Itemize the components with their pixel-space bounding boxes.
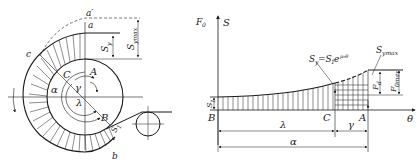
label-c: c — [26, 49, 31, 59]
left-figure: a′ a c b C A B α γ λ S y S ymax S 1 — [8, 8, 172, 161]
svg-text:y: y — [105, 42, 113, 47]
label-fd: F d — [371, 81, 382, 91]
label-A-right: A — [358, 112, 366, 123]
label-alpha: α — [51, 84, 58, 95]
rotation-arrow — [13, 88, 15, 112]
label-f0max: F 0max — [389, 70, 400, 93]
label-a-prime: a′ — [86, 8, 93, 18]
svg-text:1: 1 — [209, 99, 216, 103]
label-B-right: B — [207, 112, 215, 123]
axis-label-f0: F 0 — [195, 17, 206, 28]
label-lambda: λ — [75, 97, 82, 108]
label-B: B — [100, 112, 108, 123]
label-a: a — [88, 20, 93, 30]
label-symax: S ymax — [126, 27, 139, 50]
label-A: A — [89, 66, 97, 77]
label-b: b — [112, 151, 118, 161]
svg-text:=S: =S — [318, 54, 332, 64]
tension-curve — [218, 83, 335, 97]
belt-tension-diagram: a′ a c b C A B α γ λ S y S ymax S 1 — [0, 0, 419, 163]
label-alpha-right: α — [290, 136, 297, 147]
right-figure: F 0 S θ S y =S 1 e μ₀θ S ymax S 1 F d F … — [195, 16, 415, 152]
svg-text:e: e — [334, 54, 339, 64]
svg-text:μ₀θ: μ₀θ — [340, 53, 348, 60]
label-C-right: C — [323, 112, 331, 123]
axis-label-s: S — [223, 17, 230, 28]
svg-text:0: 0 — [202, 21, 206, 28]
label-lambda-right: λ — [279, 119, 286, 130]
svg-text:ymax: ymax — [381, 49, 399, 57]
axis-label-theta: θ — [407, 113, 413, 124]
formula-label: S y =S 1 e μ₀θ — [309, 53, 348, 66]
tension-envelope-outer — [23, 52, 115, 152]
label-gamma: γ — [75, 82, 81, 93]
label-symax-right: S ymax — [376, 45, 399, 57]
rotation-arrow-pulley — [90, 82, 97, 92]
label-sy: S y — [100, 42, 113, 52]
formula-leader — [316, 62, 333, 84]
svg-text:0max: 0max — [393, 70, 400, 87]
radial-hatching — [29, 34, 111, 152]
label-gamma-right: γ — [348, 119, 354, 130]
label-C: C — [63, 69, 71, 80]
svg-text:ymax: ymax — [131, 27, 139, 45]
symax-leader — [372, 55, 381, 75]
label-s1-right: S 1 — [205, 99, 216, 108]
svg-text:d: d — [375, 81, 382, 85]
